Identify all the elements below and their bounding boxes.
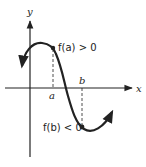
point-b-label: b (79, 75, 85, 86)
y-axis-label: y (26, 6, 33, 17)
x-axis-label: x (136, 83, 142, 94)
function-curve (22, 43, 112, 131)
function-graph-diagram: y x a b f(a) > 0 f(b) < 0 (0, 0, 146, 167)
f-b-annotation: f(b) < 0 (43, 122, 82, 133)
point-a-marker (51, 46, 55, 50)
graph-canvas: y x a b f(a) > 0 f(b) < 0 (0, 0, 146, 167)
f-a-annotation: f(a) > 0 (58, 42, 97, 53)
point-a-label: a (49, 90, 55, 101)
